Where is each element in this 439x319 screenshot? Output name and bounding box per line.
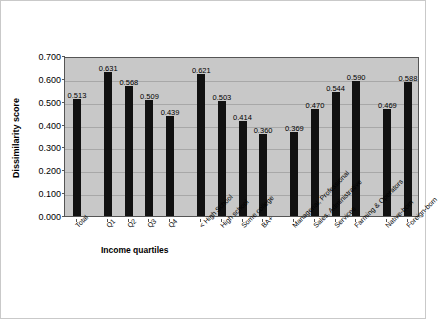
x-axis-title: Income quartiles xyxy=(101,245,169,255)
y-axis-tick-label: 0.700 xyxy=(23,51,61,63)
bar-value-label: 0.503 xyxy=(208,93,236,102)
bar xyxy=(73,99,81,216)
bar-value-label: 0.568 xyxy=(115,78,143,87)
bar-value-label: 0.631 xyxy=(94,64,122,73)
bar xyxy=(125,86,133,216)
bar xyxy=(352,81,360,216)
bar xyxy=(166,116,174,216)
bar-value-label: 0.513 xyxy=(63,91,91,100)
gridline xyxy=(65,104,418,105)
plot-area: 0.5130.6310.5680.5090.4390.6210.5030.414… xyxy=(64,57,419,217)
bar-value-label: 0.544 xyxy=(322,84,350,93)
y-axis-title-text: Dissimilarity score xyxy=(9,63,23,213)
bar-value-label: 0.414 xyxy=(229,113,257,122)
bar-value-label: 0.360 xyxy=(249,126,277,135)
bar-value-label: 0.509 xyxy=(135,92,163,101)
y-axis-tick-label: 0.500 xyxy=(23,97,61,109)
y-axis-tick-label: 0.000 xyxy=(23,211,61,223)
y-axis-tick-label: 0.400 xyxy=(23,120,61,132)
y-axis-title: Dissimilarity score xyxy=(9,63,23,213)
bar-value-label: 0.439 xyxy=(156,108,184,117)
bar xyxy=(104,72,112,216)
y-axis-tick-label: 0.300 xyxy=(23,142,61,154)
bar-value-label: 0.470 xyxy=(301,101,329,110)
bar-value-label: 0.590 xyxy=(342,73,370,82)
y-axis-tick-labels: 0.0000.1000.2000.3000.4000.5000.6000.700 xyxy=(23,51,61,217)
y-axis-tick-label: 0.600 xyxy=(23,74,61,86)
y-axis-tick-label: 0.100 xyxy=(23,188,61,200)
bar xyxy=(404,82,412,216)
bar-value-label: 0.621 xyxy=(187,66,215,75)
bar-value-label: 0.369 xyxy=(280,124,308,133)
bar-value-label: 0.469 xyxy=(373,101,401,110)
bar-value-label: 0.588 xyxy=(394,74,422,83)
y-axis-tick-label: 0.200 xyxy=(23,165,61,177)
bar xyxy=(290,132,298,216)
x-axis-tick-labels: TotalQ1Q2Q3Q4< High SchoolHigh schoolSom… xyxy=(64,219,419,299)
bar xyxy=(145,100,153,216)
bar xyxy=(197,74,205,216)
